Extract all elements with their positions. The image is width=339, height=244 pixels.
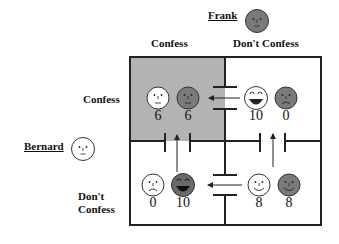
frank-smile-face-icon — [278, 174, 300, 196]
payoff-bernard-cd: 10 — [244, 108, 268, 124]
frank-frown-face-icon — [275, 87, 297, 109]
frank-neutral-face-icon — [177, 87, 199, 109]
payoff-bernard-dc: 0 — [141, 195, 165, 211]
bernard-neutral-face-icon — [147, 87, 169, 109]
bernard-frown-face-icon — [142, 174, 164, 196]
bernard-big-grin-face-icon — [245, 87, 268, 110]
payoff-bernard-dd: 8 — [247, 195, 271, 211]
frank-big-grin-face-icon — [172, 174, 195, 197]
payoff-frank-dc: 10 — [171, 195, 195, 211]
bernard-smile-face-icon — [248, 174, 270, 196]
payoff-frank-cc: 6 — [176, 108, 200, 124]
payoff-frank-dd: 8 — [277, 195, 301, 211]
payoff-frank-cd: 0 — [274, 108, 298, 124]
payoff-bernard-cc: 6 — [146, 108, 170, 124]
